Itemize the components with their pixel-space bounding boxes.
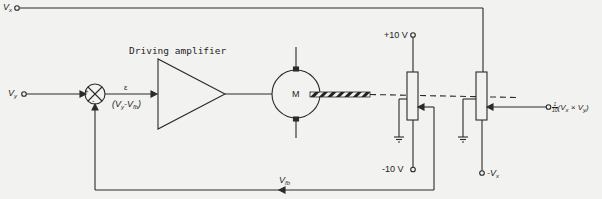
error-expression: (Vy-Vfb) (112, 100, 141, 110)
amplifier-label: Driving amplifier (129, 46, 226, 56)
error-symbol: ε (124, 84, 128, 92)
summing-plus-sign: + (85, 88, 89, 94)
feedback-voltage-label: Vfb (279, 176, 290, 186)
servo-multiplier-diagram: Vx Vy + - ε (Vy-Vfb) Driving amplifier M… (0, 0, 602, 199)
motor-label: M (292, 90, 300, 99)
diagram-lines (0, 0, 602, 199)
vx-input-terminal (15, 6, 20, 11)
motor-shaft (310, 92, 370, 97)
output-terminal (546, 105, 551, 110)
vy-input-terminal (22, 92, 27, 97)
plus-ten-volt-label: +10 V (384, 31, 408, 40)
output-label: 110(Vx × Vy) (552, 102, 589, 113)
feedback-potentiometer (407, 72, 418, 120)
neg-vx-label: -Vx (487, 169, 499, 179)
multiplier-potentiometer (476, 72, 487, 120)
vy-input-label: Vy (8, 89, 17, 99)
summing-minus-sign: - (92, 97, 94, 104)
minus-ten-volt-label: -10 V (382, 165, 404, 174)
vx-input-label: Vx (3, 3, 12, 13)
driving-amplifier (158, 59, 225, 129)
